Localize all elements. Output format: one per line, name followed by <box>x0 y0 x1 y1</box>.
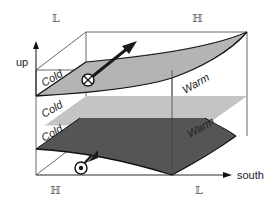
warm-label-upper: Warm <box>180 71 211 96</box>
corner-label-top-left: 𝕃 <box>52 12 60 25</box>
front-layer-diagram: up south 𝕃 ℍ ℍ 𝕃 Cold Cold Cold Warm War… <box>0 0 280 204</box>
south-axis-label: south <box>237 169 264 181</box>
corner-label-bottom-right: 𝕃 <box>195 184 203 197</box>
box-left-top-edge <box>36 32 86 70</box>
up-arrow-head-icon <box>33 41 39 49</box>
south-arrow-head-icon <box>223 172 232 178</box>
up-axis: up <box>16 41 39 96</box>
up-axis-label: up <box>16 56 28 68</box>
corner-label-bottom-left: ℍ <box>50 184 61 197</box>
corner-label-top-right: ℍ <box>192 12 203 25</box>
south-axis: south <box>36 169 264 181</box>
upper-surface <box>36 32 247 96</box>
